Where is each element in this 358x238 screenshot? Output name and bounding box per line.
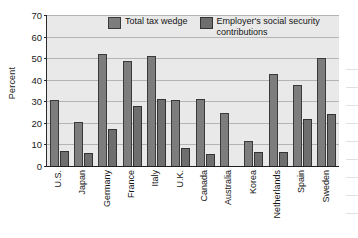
bar-series-1 — [147, 56, 156, 166]
x-axis-label-cell: Canada — [192, 168, 216, 238]
bar-series-1 — [244, 141, 253, 166]
y-axis-tick-label: 70 — [2, 11, 42, 20]
bar-group — [266, 15, 290, 166]
bar-group — [169, 15, 193, 166]
y-axis-tick-label: 20 — [2, 118, 42, 127]
bar-series-2 — [303, 119, 312, 166]
bar-group — [144, 15, 168, 166]
bar-series-2 — [254, 152, 263, 166]
x-axis-tick-label: Canada — [199, 170, 209, 202]
bar-series-1 — [98, 54, 107, 166]
x-axis-tick-label: U.K. — [175, 170, 185, 188]
bar-series-1 — [171, 100, 180, 166]
bar-group — [315, 15, 339, 166]
bar-series-1 — [196, 99, 205, 166]
bar-chart: Percent 010203040506070 U.S.JapanGermany… — [0, 0, 358, 238]
x-axis-label-cell: Netherlands — [265, 168, 289, 238]
bar-group — [217, 15, 241, 166]
y-axis-tick-mark — [44, 166, 47, 167]
bar-series-2 — [60, 151, 69, 166]
y-axis-tick-label: 60 — [2, 32, 42, 41]
x-axis-label-cell: U.S. — [46, 168, 70, 238]
y-axis-tick-label: 50 — [2, 54, 42, 63]
bar-series-2 — [157, 99, 166, 166]
chart-legend: Total tax wedge Employer's social securi… — [108, 16, 323, 37]
bar-group — [71, 15, 95, 166]
bar-group — [193, 15, 217, 166]
legend-item-total-tax-wedge: Total tax wedge — [108, 16, 188, 29]
bar-series-2 — [84, 153, 93, 166]
bar-group — [290, 15, 314, 166]
x-axis-labels: U.S.JapanGermanyFranceItalyU.K.CanadaAus… — [46, 168, 338, 238]
series-1-swatch-icon — [108, 17, 121, 29]
series-2-swatch-icon — [200, 17, 213, 29]
scan-artifact — [346, 60, 358, 230]
bar-series-2 — [181, 148, 190, 166]
y-axis-tick-label: 0 — [2, 162, 42, 171]
x-axis-label-cell: Sweden — [314, 168, 338, 238]
bar-group — [242, 15, 266, 166]
x-axis-tick-label: France — [126, 170, 136, 198]
bar-series-2 — [327, 114, 336, 166]
x-axis-label-cell: Australia — [216, 168, 240, 238]
x-axis-label-cell: France — [119, 168, 143, 238]
y-axis-tick-label: 40 — [2, 75, 42, 84]
x-axis-tick-label: U.S. — [53, 170, 63, 188]
bar-series-2 — [206, 154, 215, 166]
legend-label-series-1: Total tax wedge — [125, 16, 188, 27]
x-axis-tick-label: Japan — [77, 170, 87, 195]
x-axis-label-cell: Germany — [95, 168, 119, 238]
x-axis-tick-label: Spain — [296, 170, 306, 193]
x-axis-label-cell: Japan — [70, 168, 94, 238]
x-axis-tick-label: Australia — [223, 170, 233, 205]
bar-series-1 — [269, 74, 278, 166]
bar-group — [47, 15, 71, 166]
bar-group — [120, 15, 144, 166]
y-axis-tick-label: 10 — [2, 140, 42, 149]
bar-series-2 — [279, 152, 288, 166]
bar-series-1 — [317, 58, 326, 166]
bar-series-2 — [108, 129, 117, 166]
gridline — [47, 166, 339, 167]
y-axis-tick-label: 30 — [2, 97, 42, 106]
x-axis-tick-label: Italy — [150, 170, 160, 187]
legend-label-series-2: Employer's social security contributions — [217, 16, 323, 37]
bar-series-1 — [220, 113, 229, 166]
bar-series-1 — [50, 100, 59, 166]
plot-area: 010203040506070 — [46, 15, 339, 167]
bar-series-1 — [123, 61, 132, 166]
x-axis-label-cell: U.K. — [168, 168, 192, 238]
x-axis-label-cell: Spain — [289, 168, 313, 238]
x-axis-label-cell: Italy — [143, 168, 167, 238]
bar-series-1 — [74, 122, 83, 166]
bar-series-1 — [293, 85, 302, 166]
x-axis-label-cell: Korea — [241, 168, 265, 238]
x-axis-tick-label: Sweden — [321, 170, 331, 203]
x-axis-tick-label: Germany — [102, 170, 112, 207]
legend-item-employer-social-security: Employer's social security contributions — [200, 16, 323, 37]
bar-group — [96, 15, 120, 166]
bar-series-2 — [133, 106, 142, 166]
x-axis-tick-label: Netherlands — [272, 170, 282, 219]
bar-groups — [47, 15, 339, 166]
x-axis-tick-label: Korea — [248, 170, 258, 194]
